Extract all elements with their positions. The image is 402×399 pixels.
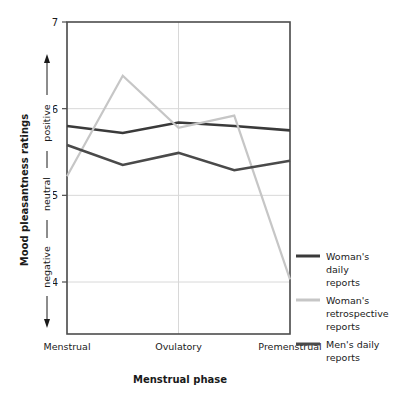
legend-label-woman-daily-line-1: daily bbox=[326, 264, 349, 275]
legend-label-woman-retrospective-line-2: reports bbox=[326, 321, 360, 332]
x-category-label-0: Menstrual bbox=[43, 341, 90, 352]
x-axis-ticks: MenstrualOvulatoryPremenstrual bbox=[43, 341, 321, 352]
legend-label-men-daily-line-1: reports bbox=[326, 352, 360, 363]
line-chart-svg: 4567 MenstrualOvulatoryPremenstrual posi… bbox=[0, 0, 402, 399]
x-category-label-1: Ovulatory bbox=[155, 341, 202, 352]
y-scale-neutral-label: neutral bbox=[41, 177, 52, 211]
legend-label-men-daily-line-0: Men's daily bbox=[326, 339, 380, 350]
legend-label-woman-retrospective-line-1: retrospective bbox=[326, 308, 389, 319]
y-tick-label: 7 bbox=[52, 17, 58, 28]
y-scale-negative-label: negative bbox=[41, 246, 52, 288]
legend-label-woman-retrospective-line-0: Woman's bbox=[326, 295, 369, 306]
legend-label-woman-daily-line-2: reports bbox=[326, 277, 360, 288]
y-scale-positive-label: positive bbox=[41, 104, 52, 141]
legend-label-woman-daily-line-0: Woman's bbox=[326, 251, 369, 262]
chart-figure: 4567 MenstrualOvulatoryPremenstrual posi… bbox=[0, 0, 402, 399]
y-axis-title: Mood pleasantness ratings bbox=[19, 114, 30, 266]
x-axis-title: Menstrual phase bbox=[133, 374, 227, 385]
